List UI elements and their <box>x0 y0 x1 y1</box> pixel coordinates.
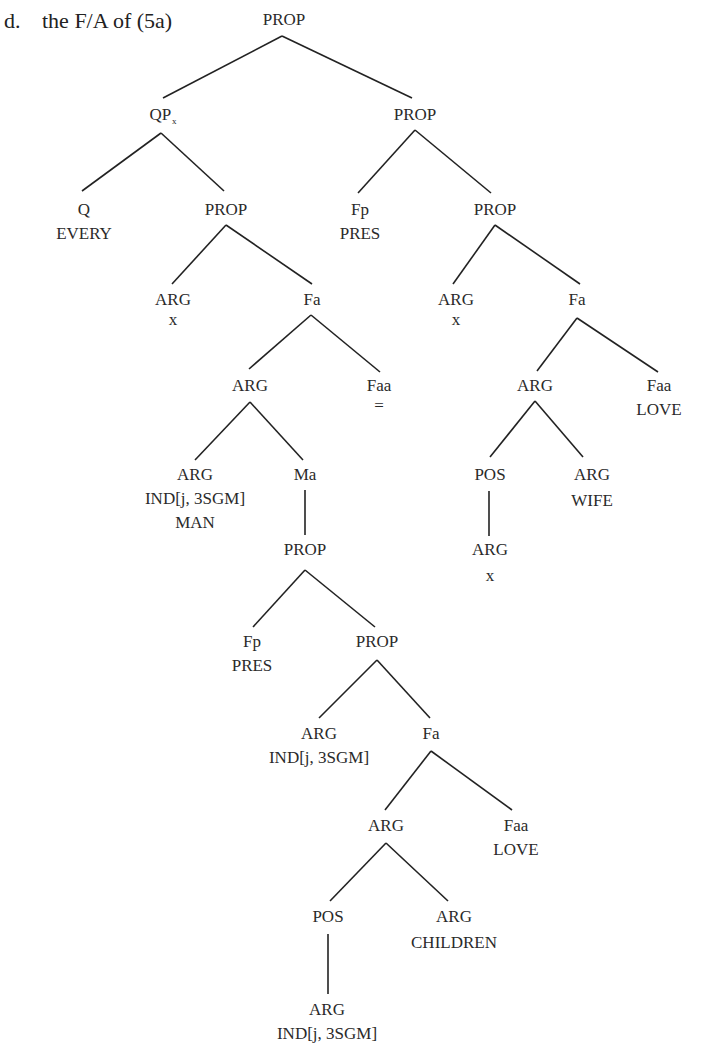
node-value: IND[j, 3SGM] <box>277 1022 377 1046</box>
node-r-prop2: PROP <box>474 198 517 222</box>
node-value: LOVE <box>493 838 538 862</box>
node-value-2: MAN <box>145 511 245 535</box>
node-ma-pos: POS <box>312 905 343 929</box>
node-category: POS <box>474 463 505 487</box>
node-ma-arg: ARG IND[j, 3SGM] <box>269 722 369 770</box>
node-category: Faa <box>636 374 681 398</box>
node-value: WIFE <box>571 489 613 513</box>
node-category: Q <box>56 198 112 222</box>
node-ma-prop2: PROP <box>356 630 399 654</box>
node-qp-fa: Fa <box>304 288 321 312</box>
node-ma-prop: PROP <box>284 538 327 562</box>
node-category: ARG <box>232 374 268 398</box>
node-category: PROP <box>205 198 248 222</box>
node-category: POS <box>312 905 343 929</box>
node-r-arg: ARG x <box>438 288 474 332</box>
node-category: QP <box>149 105 171 124</box>
node-category: ARG <box>472 538 508 562</box>
node-value: IND[j, 3SGM] <box>269 746 369 770</box>
node-category: PROP <box>474 198 517 222</box>
node-ma-children: ARG CHILDREN <box>411 905 497 955</box>
node-qp-arg: ARG x <box>155 288 191 332</box>
node-category: Fa <box>423 722 440 746</box>
node-category: PROP <box>394 103 437 127</box>
node-r-faa: Faa LOVE <box>636 374 681 422</box>
node-category: PROP <box>284 538 327 562</box>
node-value: LOVE <box>636 398 681 422</box>
node-category: ARG <box>269 722 369 746</box>
node-man-arg: ARG IND[j, 3SGM] MAN <box>145 463 245 535</box>
node-category: Fa <box>569 288 586 312</box>
node-category: Ma <box>294 463 317 487</box>
node-category: ARG <box>517 374 553 398</box>
node-value: PRES <box>232 654 273 678</box>
node-qp-prop: PROP <box>205 198 248 222</box>
node-value: IND[j, 3SGM] <box>145 487 245 511</box>
node-ma-fa-arg: ARG <box>368 814 404 838</box>
node-root-prop: PROP <box>263 8 306 32</box>
node-category: Fa <box>304 288 321 312</box>
tree-branches <box>0 0 706 1054</box>
node-r-fa: Fa <box>569 288 586 312</box>
node-r-pos: POS <box>474 463 505 487</box>
node-r-fa-arg: ARG <box>517 374 553 398</box>
node-category: PROP <box>263 8 306 32</box>
node-qp-faa: Faa = <box>367 374 392 418</box>
node-ma-pos-arg: ARG IND[j, 3SGM] <box>277 998 377 1046</box>
node-q: Q EVERY <box>56 198 112 246</box>
node-category: Fp <box>232 630 273 654</box>
node-qp: QPx <box>149 103 176 133</box>
node-ma-fp: Fp PRES <box>232 630 273 678</box>
node-ma: Ma <box>294 463 317 487</box>
node-ma-fa: Fa <box>423 722 440 746</box>
node-value: EVERY <box>56 222 112 246</box>
node-r-pos-arg: ARG x <box>472 538 508 588</box>
node-category: ARG <box>277 998 377 1022</box>
node-r-prop: PROP <box>394 103 437 127</box>
node-category: ARG <box>571 463 613 487</box>
node-value: PRES <box>340 222 381 246</box>
node-category: ARG <box>145 463 245 487</box>
node-subscript: x <box>172 116 177 126</box>
node-category: PROP <box>356 630 399 654</box>
node-category: Faa <box>493 814 538 838</box>
node-qp-fa-arg: ARG <box>232 374 268 398</box>
node-r-fp: Fp PRES <box>340 198 381 246</box>
node-category: Fp <box>340 198 381 222</box>
node-category: ARG <box>368 814 404 838</box>
node-ma-faa: Faa LOVE <box>493 814 538 862</box>
node-value: x <box>472 564 508 588</box>
node-value: CHILDREN <box>411 931 497 955</box>
node-r-wife: ARG WIFE <box>571 463 613 513</box>
node-category: ARG <box>411 905 497 929</box>
